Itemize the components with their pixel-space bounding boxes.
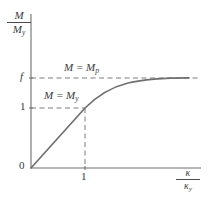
y-axis-label: M My: [7, 10, 31, 37]
annotation-yield-moment: M = My: [44, 90, 79, 103]
origin-label: 0: [19, 160, 25, 171]
y-tick-label-one: 1: [20, 101, 26, 112]
y-axis-label-numerator: M: [7, 10, 31, 23]
x-axis-label: κ κy: [176, 168, 200, 193]
x-axis-label-numerator: κ: [176, 168, 200, 180]
annotation-plastic-moment: M = Mp: [64, 62, 99, 75]
x-tick-label-one: 1: [81, 171, 87, 182]
x-axis-label-denominator: κy: [176, 180, 200, 193]
y-axis-label-denominator: My: [7, 23, 31, 37]
moment-curvature-figure: M My κ κy f 1 0 1 M = Mp M = My: [0, 0, 208, 201]
y-tick-label-f: f: [20, 71, 23, 82]
